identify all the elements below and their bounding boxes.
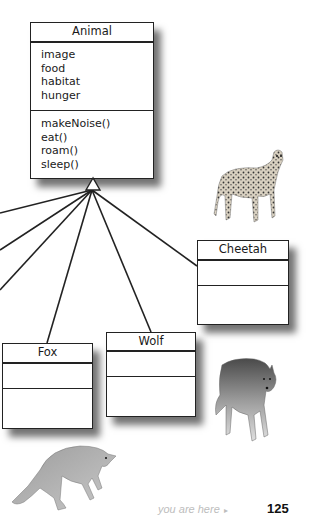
class-wolf: Wolf bbox=[106, 332, 196, 417]
you-are-here-text: you are here bbox=[158, 503, 220, 515]
attribute: hunger bbox=[31, 89, 153, 103]
inheritance-line-offscreen-1 bbox=[0, 190, 92, 213]
class-cheetah: Cheetah bbox=[197, 240, 289, 325]
class-name: Animal bbox=[31, 23, 153, 43]
methods-section: makeNoise() eat() roam() sleep() bbox=[31, 111, 153, 171]
method: makeNoise() bbox=[31, 117, 153, 131]
attributes-section bbox=[198, 261, 288, 286]
method: sleep() bbox=[31, 158, 153, 172]
attributes-section bbox=[107, 352, 195, 377]
class-name: Wolf bbox=[107, 333, 195, 352]
class-animal: Animal image food habitat hunger makeNoi… bbox=[30, 22, 154, 179]
you-are-here-label: you are here▸ bbox=[158, 503, 228, 515]
method: roam() bbox=[31, 144, 153, 158]
attributes-section: image food habitat hunger bbox=[31, 43, 153, 111]
method: eat() bbox=[31, 131, 153, 145]
attributes-section bbox=[3, 364, 92, 389]
class-fox: Fox bbox=[2, 343, 93, 429]
attribute: food bbox=[31, 62, 153, 76]
wolf-image bbox=[214, 355, 280, 443]
inheritance-line-fox bbox=[47, 190, 92, 343]
cheetah-image bbox=[212, 146, 286, 230]
arrow-right-icon: ▸ bbox=[224, 506, 228, 515]
attribute: habitat bbox=[31, 75, 153, 89]
class-name: Cheetah bbox=[198, 241, 288, 261]
page-number: 125 bbox=[267, 501, 289, 516]
inheritance-line-offscreen-3 bbox=[0, 190, 92, 290]
attribute: image bbox=[31, 48, 153, 62]
fox-image bbox=[10, 440, 120, 516]
class-name: Fox bbox=[3, 344, 92, 364]
